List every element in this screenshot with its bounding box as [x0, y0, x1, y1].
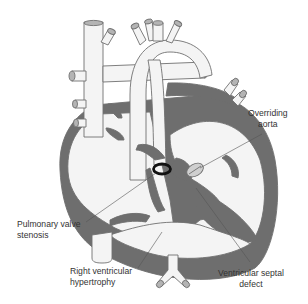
label-line: stenosis [17, 230, 81, 241]
heart-diagram [0, 0, 308, 304]
label-line: aorta [248, 119, 288, 130]
inferior-vena-cava [92, 232, 112, 263]
label-line: Right ventricular [70, 266, 132, 277]
label-line: hypertrophy [70, 277, 132, 288]
svc-opening [84, 20, 103, 25]
label-ventricular-septal-defect: Ventricular septal defect [218, 268, 284, 290]
label-right-ventricular-hypertrophy: Right ventricular hypertrophy [70, 266, 132, 288]
label-line: defect [218, 279, 284, 290]
label-overriding-aorta: Overriding aorta [248, 108, 288, 130]
label-line: Pulmonary valve [17, 219, 81, 230]
superior-vena-cava [84, 22, 103, 137]
label-pulmonary-valve-stenosis: Pulmonary valve stenosis [17, 219, 81, 241]
label-line: Ventricular septal [218, 268, 284, 279]
label-line: Overriding [248, 108, 288, 119]
